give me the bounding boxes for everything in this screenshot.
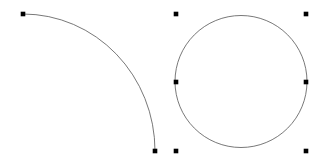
handle-top-right[interactable]	[304, 12, 309, 17]
vector-canvas-root[interactable]	[0, 0, 327, 159]
handle-bottom-right[interactable]	[304, 149, 309, 154]
circle-node-right[interactable]	[304, 80, 309, 85]
circle-node-bottom[interactable]	[174, 149, 179, 154]
circle-node-left[interactable]	[174, 80, 179, 85]
arc-node-end[interactable]	[153, 149, 158, 154]
canvas-background	[0, 0, 327, 159]
circle-node-top[interactable]	[174, 12, 179, 17]
vector-drawing-surface[interactable]	[0, 0, 327, 159]
arc-node-start[interactable]	[21, 12, 26, 17]
